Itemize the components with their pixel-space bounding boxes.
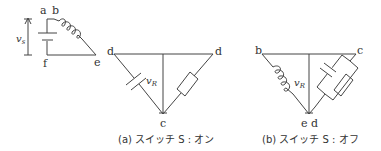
caption-b: (b) スイッチ S : オフ	[262, 134, 359, 145]
wire-right-lower	[163, 93, 181, 114]
inductor-icon	[54, 19, 96, 55]
node-e-label: e	[94, 56, 101, 69]
wire-a-b	[47, 19, 54, 33]
wire-f-e	[47, 41, 96, 55]
node-a-label: a	[40, 4, 47, 17]
capacitor-icon	[126, 73, 146, 90]
circuit-diagram: a b f e vs d d c	[0, 0, 381, 151]
battery-icon	[38, 33, 57, 40]
resistor-icon	[334, 74, 353, 96]
node-c-label: c	[160, 117, 166, 130]
parallel-rc-frame	[315, 55, 358, 107]
node-d-right-label: d	[215, 45, 222, 58]
node-f-label: f	[43, 57, 48, 70]
voltage-arrow-icon	[24, 18, 32, 55]
wire-right-upper	[350, 54, 356, 61]
node-c-label: c	[357, 44, 363, 57]
node-b-label: b	[255, 44, 262, 57]
node-b-label: b	[52, 4, 59, 17]
vr-label: vR	[294, 77, 306, 90]
vr-label: vR	[146, 75, 158, 88]
figure-a: d d c vR (a) スイッチ S : オン	[107, 45, 222, 145]
wire-right-upper	[194, 54, 213, 76]
source-circuit: a b f e vs	[16, 4, 101, 70]
resistor-icon	[177, 72, 198, 96]
node-ed-label: e d	[301, 117, 318, 130]
figure-b: b c e d vR (b) スイッチ S : オフ	[255, 44, 363, 145]
wire-left-upper	[114, 54, 134, 78]
wire-left-lower	[139, 84, 163, 114]
node-d-left-label: d	[107, 45, 114, 58]
caption-a: (a) スイッチ S : オン	[118, 134, 214, 145]
vs-label: vs	[16, 33, 26, 46]
